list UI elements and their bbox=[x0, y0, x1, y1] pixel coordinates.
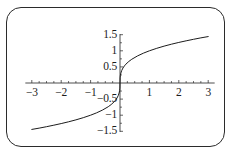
y-tick-label: 1 bbox=[111, 45, 117, 57]
x-tick-label: −3 bbox=[26, 87, 38, 99]
y-tick-label: −1 bbox=[105, 109, 117, 121]
x-tick-label: −2 bbox=[55, 87, 67, 99]
y-tick-label: −0.5 bbox=[97, 93, 117, 105]
x-tick-label: 1 bbox=[147, 87, 153, 99]
y-tick-label: −1.5 bbox=[97, 126, 117, 138]
y-tick-label: 0.5 bbox=[103, 61, 117, 73]
x-tick-label: 3 bbox=[205, 87, 211, 99]
y-tick-label: 1.5 bbox=[103, 29, 117, 41]
x-tick-label: −1 bbox=[85, 87, 97, 99]
figure-frame: −3−2−11231.510.5−0.5−1−1.5 bbox=[6, 7, 225, 147]
plot-area: −3−2−11231.510.5−0.5−1−1.5 bbox=[7, 8, 225, 147]
x-tick-label: 2 bbox=[176, 87, 182, 99]
